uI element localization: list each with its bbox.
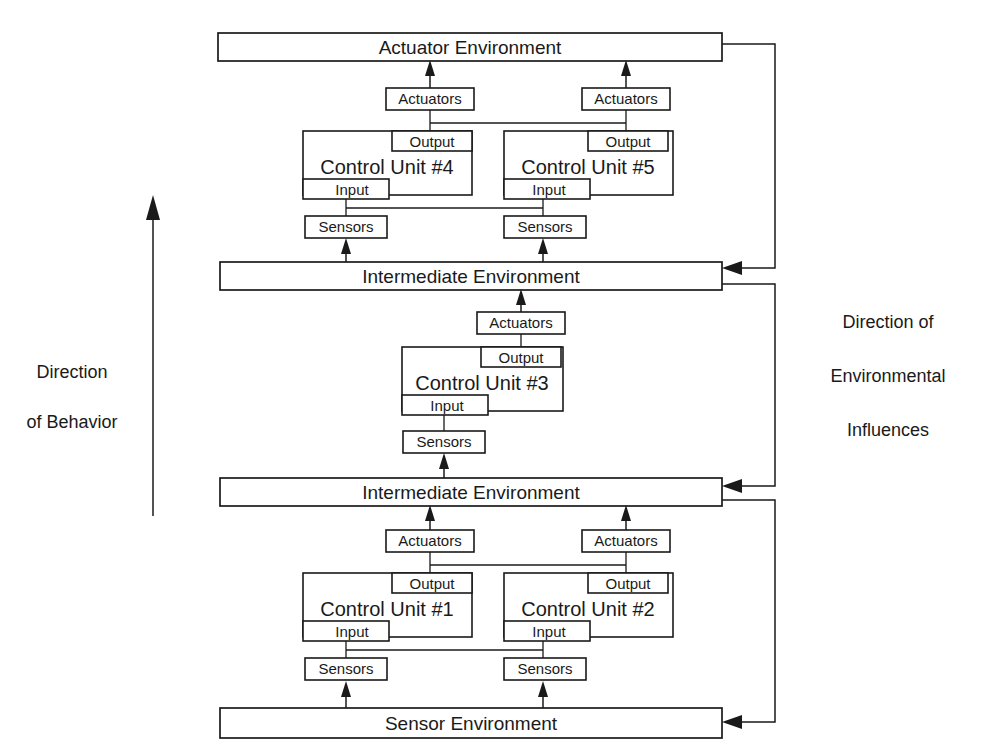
output-label: Output [605,575,651,592]
actuator-arrow-cu3 [516,289,526,312]
actuator-arrow-cu4 [425,60,435,88]
input-label: Input [532,623,566,640]
sensor-environment-label: Sensor Environment [385,713,558,734]
actuator-arrow-cu1 [425,505,435,530]
feedback-intermediate-lower-to-sensor [722,500,775,729]
control-unit-label: Control Unit #2 [521,598,654,620]
input-label: Input [430,397,464,414]
control-unit-3: Output Control Unit #3 Input [402,347,563,415]
output-label: Output [409,133,455,150]
feedback-intermediate-upper-to-lower [722,284,775,493]
control-unit-label: Control Unit #5 [521,156,654,178]
feedback-actuator-to-intermediate-upper [722,44,775,275]
sensors-label: Sensors [416,433,471,450]
actuator-environment: Actuator Environment [218,33,722,61]
output-label: Output [605,133,651,150]
actuator-arrow-cu5 [621,60,631,88]
actuators-label: Actuators [489,314,552,331]
control-unit-label: Control Unit #4 [320,156,453,178]
actuators-label: Actuators [594,532,657,549]
direction-of-environmental-influences-line1: Direction of [842,312,934,332]
actuators-label: Actuators [398,90,461,107]
direction-of-environmental-influences-line3: Influences [847,420,929,440]
intermediate-environment-upper-label: Intermediate Environment [362,266,580,287]
actuators-box-cu2: Actuators [582,530,670,552]
sensor-arrow-cu5 [538,238,548,262]
direction-of-behavior-line1: Direction [36,362,107,382]
control-unit-label: Control Unit #1 [320,598,453,620]
actuators-box-cu4: Actuators [386,88,474,110]
sensor-environment: Sensor Environment [220,708,722,738]
actuators-box-cu3: Actuators [477,312,565,334]
sensors-box-cu2: Sensors [504,658,586,680]
intermediate-environment-lower-label: Intermediate Environment [362,482,580,503]
sensors-label: Sensors [517,218,572,235]
intermediate-environment-upper: Intermediate Environment [220,262,722,290]
output-label: Output [498,349,544,366]
sensors-label: Sensors [318,218,373,235]
output-label: Output [409,575,455,592]
diagram-canvas: Actuator Environment Actuators Actuators [0,0,995,756]
actuator-arrow-cu2 [621,505,631,530]
sensor-arrow-cu3 [439,453,449,478]
control-unit-2: Output Control Unit #2 Input [504,573,673,641]
actuator-environment-label: Actuator Environment [379,37,562,58]
sensor-arrow-cu2 [538,681,548,708]
actuators-label: Actuators [398,532,461,549]
input-label: Input [532,181,566,198]
control-unit-5: Output Control Unit #5 Input [504,131,673,199]
sensors-box-cu1: Sensors [305,658,387,680]
diagram-svg: Actuator Environment Actuators Actuators [0,0,995,756]
intermediate-environment-lower: Intermediate Environment [220,478,722,506]
sensors-box-cu4: Sensors [305,216,387,238]
control-unit-label: Control Unit #3 [415,372,548,394]
actuators-box-cu5: Actuators [582,88,670,110]
actuators-label: Actuators [594,90,657,107]
direction-of-behavior-arrow [146,195,160,516]
control-unit-1: Output Control Unit #1 Input [303,573,472,641]
sensors-label: Sensors [318,660,373,677]
input-label: Input [335,623,369,640]
sensor-arrow-cu1 [341,681,351,708]
direction-of-behavior-line2: of Behavior [26,412,117,432]
sensors-label: Sensors [517,660,572,677]
actuators-box-cu1: Actuators [386,530,474,552]
direction-of-environmental-influences-line2: Environmental [830,366,945,386]
sensors-box-cu3: Sensors [403,431,485,453]
control-unit-4: Output Control Unit #4 Input [303,131,472,199]
sensor-arrow-cu4 [341,238,351,262]
input-label: Input [335,181,369,198]
sensors-box-cu5: Sensors [504,216,586,238]
